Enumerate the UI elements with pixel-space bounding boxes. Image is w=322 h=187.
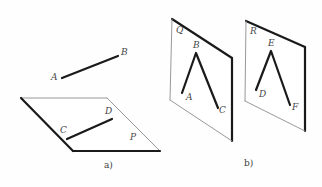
- caption-panel-b: b): [244, 158, 253, 168]
- geometry-figure: PABCDa)QABCRDEFb): [0, 0, 322, 187]
- segment-AB: [62, 56, 118, 78]
- point-label-D: D: [105, 107, 112, 116]
- point-label-E: E: [268, 39, 275, 48]
- point-label-D: D: [259, 90, 266, 99]
- point-label-C: C: [219, 106, 226, 115]
- point-label-C: C: [60, 126, 67, 135]
- point-label-B: B: [193, 41, 200, 50]
- plane-label-R: R: [250, 27, 257, 36]
- caption-panel-a: a): [104, 160, 113, 170]
- point-label-A: A: [51, 73, 58, 82]
- plane-P-face: [21, 98, 160, 151]
- point-label-B: B: [121, 48, 128, 57]
- point-label-A: A: [186, 93, 193, 102]
- point-label-F: F: [292, 103, 298, 112]
- plane-label-P: P: [130, 133, 136, 142]
- plane-R-face: [245, 21, 305, 131]
- plane-label-Q: Q: [176, 26, 183, 35]
- figure-canvas: [0, 0, 322, 187]
